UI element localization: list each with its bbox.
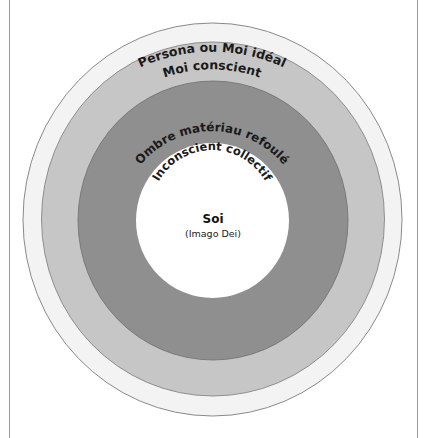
soi-title: Soi	[203, 212, 224, 226]
soi-subtitle: (Imago Dei)	[185, 228, 241, 239]
psyche-concentric-diagram: Persona ou Moi idéal Moi conscient Ombre…	[0, 0, 432, 438]
